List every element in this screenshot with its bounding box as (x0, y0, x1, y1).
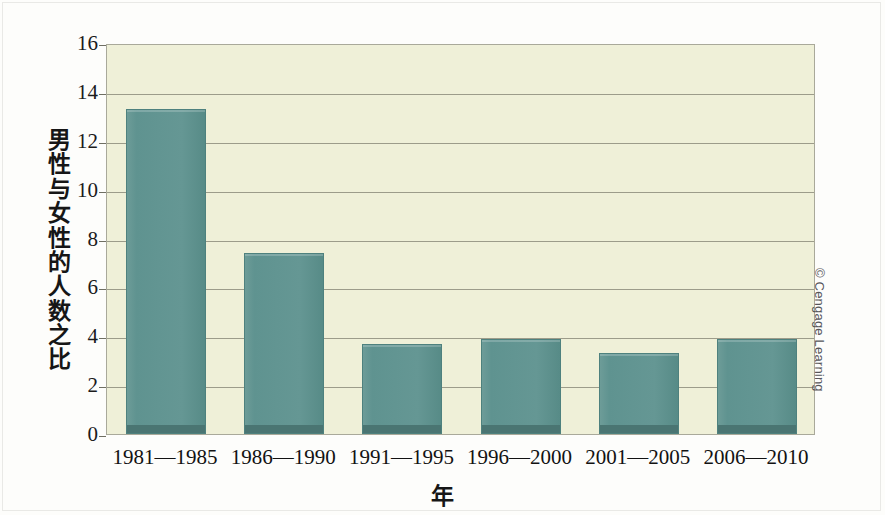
bar-base-strip (600, 425, 678, 433)
y-axis-tick-mark (99, 45, 106, 46)
y-axis-tick-mark (99, 338, 106, 339)
gridline (107, 94, 814, 95)
bar (126, 109, 206, 434)
y-axis-tick-mark (99, 143, 106, 144)
copyright-credit: © Cengage Learning (812, 268, 827, 392)
bar (717, 339, 797, 434)
bar (481, 339, 561, 434)
gridline (107, 143, 814, 144)
bar-base-strip (482, 425, 560, 433)
y-axis-tick-mark (99, 436, 106, 437)
y-axis-tick-label: 2 (56, 375, 98, 396)
gridline (107, 387, 814, 388)
y-axis-tick-mark (99, 241, 106, 242)
bar-highlight (718, 340, 796, 342)
bar-highlight (245, 254, 323, 256)
bar-highlight (482, 340, 560, 342)
y-axis-tick-label: 16 (56, 33, 98, 54)
x-axis-tick-label: 2006—2010 (686, 445, 826, 470)
bar (599, 353, 679, 434)
x-axis-title: 年 (0, 477, 885, 511)
y-axis-tick-mark (99, 289, 106, 290)
y-axis-tick-label: 12 (56, 131, 98, 152)
bar (244, 253, 324, 434)
y-axis-tick-label: 4 (56, 326, 98, 347)
bar-base-strip (127, 425, 205, 433)
y-axis-tick-mark (99, 387, 106, 388)
y-axis-tick-mark (99, 192, 106, 193)
y-axis-tick-label: 0 (56, 424, 98, 445)
bar-base-strip (363, 425, 441, 433)
gridline (107, 338, 814, 339)
y-axis-tick-labels: 0246810121416 (56, 44, 98, 435)
bar-highlight (127, 110, 205, 112)
y-axis-tick-mark (99, 94, 106, 95)
y-axis-tick-label: 6 (56, 277, 98, 298)
gridline (107, 192, 814, 193)
bar-base-strip (718, 425, 796, 433)
bar (362, 344, 442, 434)
gridline (107, 241, 814, 242)
y-axis-tick-label: 10 (56, 180, 98, 201)
bar-base-strip (245, 425, 323, 433)
plot-area (106, 44, 815, 435)
chart-figure: 男性与女性的人数之比 0246810121416 1981—19851986—1… (0, 0, 885, 515)
y-axis-tick-label: 14 (56, 82, 98, 103)
y-axis-tick-label: 8 (56, 229, 98, 250)
gridline (107, 289, 814, 290)
bar-highlight (363, 345, 441, 347)
bar-highlight (600, 354, 678, 356)
